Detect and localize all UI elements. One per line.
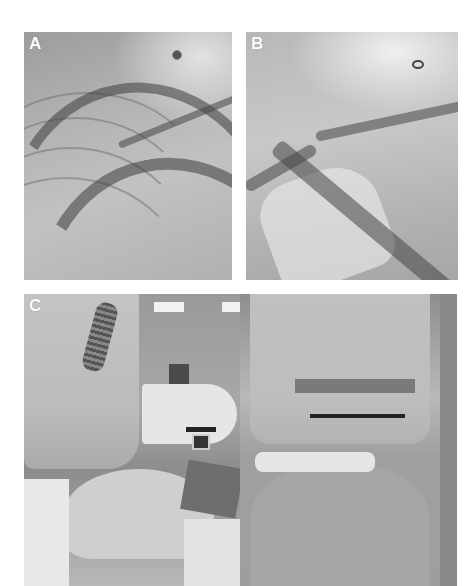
ceiling-light bbox=[154, 302, 184, 312]
machine-label bbox=[186, 427, 216, 432]
photo-right-patient-draped bbox=[240, 294, 457, 586]
detector-band bbox=[295, 379, 415, 393]
wall-edge bbox=[440, 294, 457, 586]
c-arm-machine bbox=[142, 384, 237, 444]
marker-ring bbox=[412, 60, 424, 69]
panel-label-a: A bbox=[29, 35, 41, 52]
drape-green bbox=[180, 460, 240, 519]
ceiling-light bbox=[222, 302, 240, 312]
panel-c-photographs: C bbox=[24, 294, 457, 586]
photo-left-operating-room: C bbox=[24, 294, 240, 586]
patient-body bbox=[250, 464, 430, 586]
sheet bbox=[184, 519, 240, 586]
sheet bbox=[255, 452, 375, 472]
sheet bbox=[24, 479, 69, 586]
marker-dot bbox=[172, 50, 182, 60]
monitor bbox=[192, 434, 210, 450]
plastic-drape bbox=[24, 294, 139, 469]
plastic-drape bbox=[250, 294, 430, 444]
panel-label-c: C bbox=[29, 297, 41, 314]
tube-shadow bbox=[315, 99, 458, 142]
panel-b-fluoroscopy: B bbox=[246, 32, 458, 280]
detector-slot bbox=[310, 414, 405, 418]
panel-a-fluoroscopy: A bbox=[24, 32, 232, 280]
panel-label-b: B bbox=[251, 35, 263, 52]
